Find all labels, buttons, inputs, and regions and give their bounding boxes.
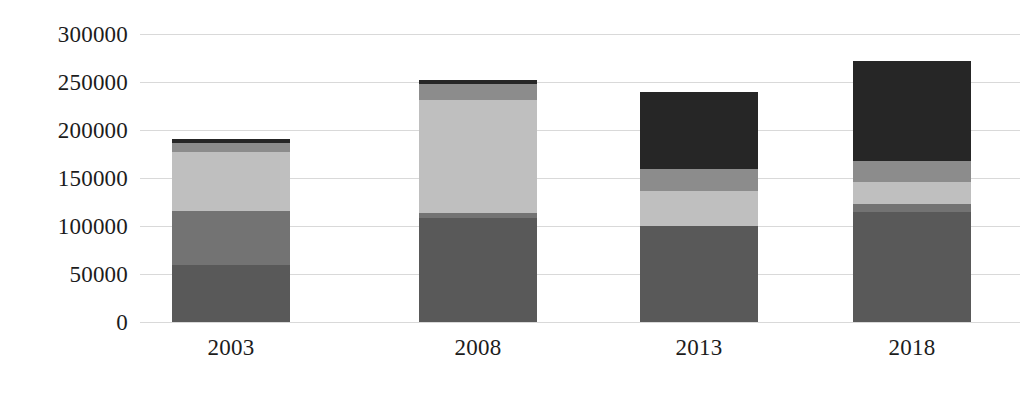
y-axis: 050000100000150000200000250000300000 (0, 0, 136, 393)
bar-segment[interactable] (853, 161, 971, 182)
bar-segment[interactable] (640, 191, 758, 226)
bar-segment[interactable] (640, 226, 758, 322)
y-axis-tick-label: 100000 (58, 215, 128, 238)
bar-segment[interactable] (853, 212, 971, 322)
y-axis-tick-label: 200000 (58, 119, 128, 142)
bar-segment[interactable] (172, 152, 290, 211)
bar-group[interactable] (640, 34, 758, 322)
bar-segment[interactable] (419, 218, 537, 322)
bar-segment[interactable] (853, 204, 971, 212)
y-axis-tick-label: 300000 (58, 23, 128, 46)
y-axis-tick-label: 150000 (58, 167, 128, 190)
y-axis-tick-label: 50000 (70, 263, 129, 286)
stacked-bar[interactable] (419, 80, 537, 322)
bar-group[interactable] (172, 34, 290, 322)
stacked-bar-chart: 050000100000150000200000250000300000 200… (0, 0, 1036, 393)
stacked-bar[interactable] (640, 92, 758, 322)
bar-segment[interactable] (853, 61, 971, 161)
x-axis: 2003200820132018 (140, 330, 1020, 380)
stacked-bar[interactable] (853, 61, 971, 322)
bar-group[interactable] (419, 34, 537, 322)
bar-segment[interactable] (172, 143, 290, 153)
bar-segment[interactable] (419, 84, 537, 100)
stacked-bar[interactable] (172, 139, 290, 322)
bar-segment[interactable] (640, 169, 758, 191)
x-axis-tick-label: 2013 (676, 336, 723, 359)
bar-segment[interactable] (172, 265, 290, 322)
bar-segment[interactable] (640, 92, 758, 170)
y-axis-tick-label: 250000 (58, 71, 128, 94)
bar-group[interactable] (853, 34, 971, 322)
x-axis-tick-label: 2008 (455, 336, 502, 359)
x-axis-tick-label: 2003 (208, 336, 255, 359)
x-axis-tick-label: 2018 (889, 336, 936, 359)
y-axis-tick-label: 0 (116, 311, 128, 334)
bar-segment[interactable] (853, 182, 971, 204)
bar-segment[interactable] (172, 211, 290, 266)
bar-segment[interactable] (419, 100, 537, 212)
